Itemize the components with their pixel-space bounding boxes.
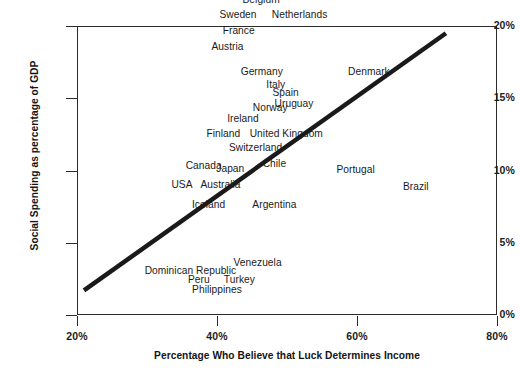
data-point-label: Denmark	[348, 65, 390, 76]
y-tick-mark	[66, 315, 77, 316]
data-point-label: Austria	[211, 41, 243, 52]
x-tick-label: 80%	[462, 330, 520, 342]
y-tick-mark	[66, 171, 77, 172]
x-tick-mark	[77, 316, 78, 326]
y-tick-mark	[66, 26, 77, 27]
data-point-label: Netherlands	[272, 9, 327, 20]
data-point-label: Belgium	[243, 0, 280, 4]
data-point-label: Venezuela	[234, 256, 282, 267]
y-axis-title: Social Spending as percentage of GDP	[29, 16, 40, 296]
data-point-label: Argentina	[252, 198, 296, 209]
data-point-label: Philippines	[192, 283, 242, 294]
x-tick-label: 20%	[42, 330, 112, 342]
x-tick-mark	[357, 316, 358, 326]
data-point-label: Switzerland	[229, 142, 282, 153]
plot-area	[77, 26, 497, 315]
x-tick-label: 40%	[182, 330, 252, 342]
data-point-label: Chile	[263, 158, 286, 169]
data-point-label: USA	[171, 178, 192, 189]
y-tick-mark	[66, 243, 77, 244]
data-point-label: Norway	[253, 101, 288, 112]
data-point-label: Iceland	[192, 198, 225, 209]
y-tick-label: 0%	[453, 308, 515, 320]
y-tick-mark	[66, 98, 77, 99]
y-tick-label: 10%	[453, 164, 515, 176]
data-point-label: France	[223, 25, 255, 36]
y-tick-label: 5%	[453, 236, 515, 248]
data-point-label: Japan	[216, 162, 244, 173]
y-tick-label: 15%	[453, 91, 515, 103]
x-tick-mark	[497, 316, 498, 326]
data-point-label: Sweden	[219, 9, 256, 20]
y-tick-label: 20%	[453, 19, 515, 31]
data-point-label: Brazil	[403, 181, 429, 192]
x-tick-mark	[217, 316, 218, 326]
data-point-label: Ireland	[227, 113, 259, 124]
data-point-label: Germany	[241, 65, 283, 76]
x-tick-label: 60%	[322, 330, 392, 342]
data-point-label: Finland	[206, 127, 240, 138]
x-axis-title: Percentage Who Believe that Luck Determi…	[77, 350, 497, 361]
data-point-label: Portugal	[336, 164, 374, 175]
data-point-label: United Kingdom	[250, 127, 323, 138]
data-point-label: Australia	[200, 178, 240, 189]
